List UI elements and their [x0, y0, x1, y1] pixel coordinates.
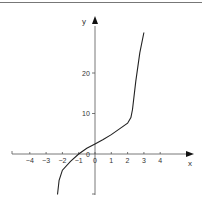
y-axis-arrow-icon	[92, 16, 98, 24]
y-tick-label: 20	[82, 70, 90, 77]
x-axis-arrow-icon	[186, 151, 194, 157]
origin-label: 0	[86, 151, 90, 158]
x-tick-label: 3	[142, 157, 146, 164]
x-tick-label: −4	[26, 157, 34, 164]
x-tick-label: 0	[93, 157, 97, 164]
data-curve	[58, 33, 144, 195]
y-axis-label: y	[82, 17, 86, 26]
x-tick-label: −1	[75, 157, 83, 164]
x-axis-label: x	[188, 159, 192, 168]
x-tick-label: 2	[126, 157, 130, 164]
chart-plot: x y −4−3−2−101234 1020 0	[0, 0, 202, 209]
y-tick-label: 10	[82, 110, 90, 117]
x-tick-label: 4	[158, 157, 162, 164]
y-ticks: 1020	[82, 70, 95, 118]
x-tick-label: −3	[42, 157, 50, 164]
x-tick-label: 1	[109, 157, 113, 164]
x-tick-label: −2	[58, 157, 66, 164]
